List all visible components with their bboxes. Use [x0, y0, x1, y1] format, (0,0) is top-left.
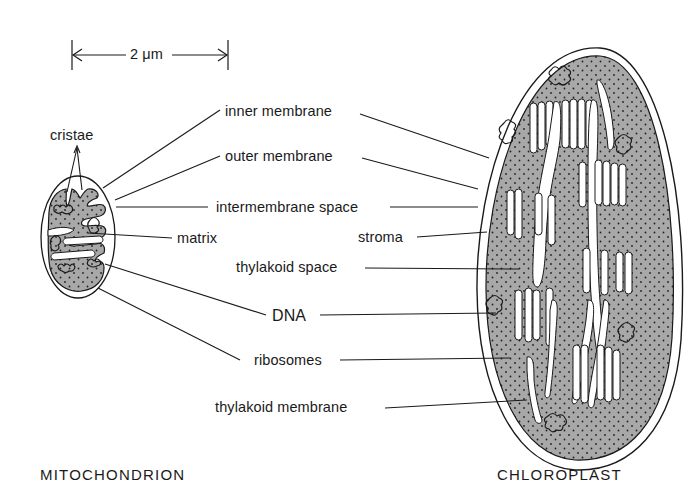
label-thylakoid-membrane: thylakoid membrane	[215, 400, 347, 415]
label-inner-membrane: inner membrane	[225, 104, 332, 119]
label-matrix: matrix	[177, 231, 217, 246]
mitochondrion-drawing	[41, 176, 115, 298]
scale-bar-label: 2 μm	[130, 47, 163, 62]
label-cristae: cristae	[50, 128, 93, 143]
title-mitochondrion: MITOCHONDRION	[40, 467, 185, 482]
label-intermembrane-space: intermembrane space	[216, 200, 358, 215]
title-chloroplast: CHLOROPLAST	[497, 467, 622, 482]
label-stroma: stroma	[358, 230, 403, 245]
label-ribosomes: ribosomes	[254, 353, 322, 368]
chloroplast-drawing	[477, 48, 683, 470]
organelle-diagram	[0, 0, 689, 499]
label-dna: DNA	[272, 308, 306, 324]
label-outer-membrane: outer membrane	[225, 149, 333, 164]
label-thylakoid-space: thylakoid space	[236, 260, 337, 275]
